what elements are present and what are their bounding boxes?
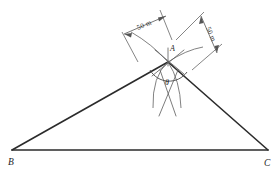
angle-label-theta: θ <box>165 78 169 87</box>
vertex-label-b: B <box>8 157 14 167</box>
vertex-label-c: C <box>264 158 271 168</box>
dimension-left: 50 m <box>122 10 172 62</box>
dimension-right-label: 50 m <box>204 26 217 44</box>
triangle-outline <box>12 62 268 150</box>
dimension-left-ext-end <box>160 10 172 40</box>
construction-arc-right <box>153 47 203 108</box>
geometry-figure: 50 m 50 m A θ B C <box>0 0 280 172</box>
figure-canvas: 50 m 50 m A θ B C <box>0 0 280 172</box>
lower-cross-line-2 <box>159 70 178 116</box>
triangle-side-ac <box>168 62 268 150</box>
dimension-right: 50 m <box>176 12 222 70</box>
lower-cross-line-1 <box>160 70 176 116</box>
dimension-left-arrow-end <box>158 16 166 22</box>
triangle-side-ab <box>12 62 168 150</box>
apex-label-a: A <box>169 44 175 53</box>
dimension-right-ext-start <box>176 12 204 40</box>
dimension-left-label: 50 m <box>136 18 154 31</box>
lower-cross-marks <box>159 70 178 116</box>
